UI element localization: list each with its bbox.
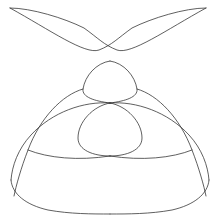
plot-background: [0, 0, 215, 222]
figure-canvas: [0, 0, 215, 222]
parametric-curve-plot: [0, 0, 215, 222]
